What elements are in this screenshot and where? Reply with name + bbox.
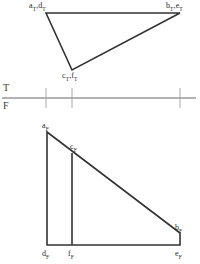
point-label-c-front: cF xyxy=(70,143,77,151)
point-label-f-front: fF xyxy=(68,250,74,258)
point-label-a-front: aF xyxy=(42,122,49,130)
point-label-cf-top: cT,fT xyxy=(62,72,77,80)
drawing-canvas: T F aT,dTbT,eTcT,fTaFcFbFdFfFeF xyxy=(0,0,200,264)
fold-line-label-top: T xyxy=(3,83,9,93)
fold-line-label-bottom: F xyxy=(3,101,9,111)
point-label-b-front: bF xyxy=(175,224,182,232)
front-view-outline xyxy=(47,132,180,245)
projection-drawing xyxy=(0,0,200,264)
top-view-triangle xyxy=(46,13,180,70)
point-label-d-front: dF xyxy=(42,250,49,258)
point-label-ad-top: aT,dT xyxy=(29,2,46,10)
point-label-be-top: bT,eT xyxy=(166,2,183,10)
point-label-e-front: eF xyxy=(175,250,182,258)
